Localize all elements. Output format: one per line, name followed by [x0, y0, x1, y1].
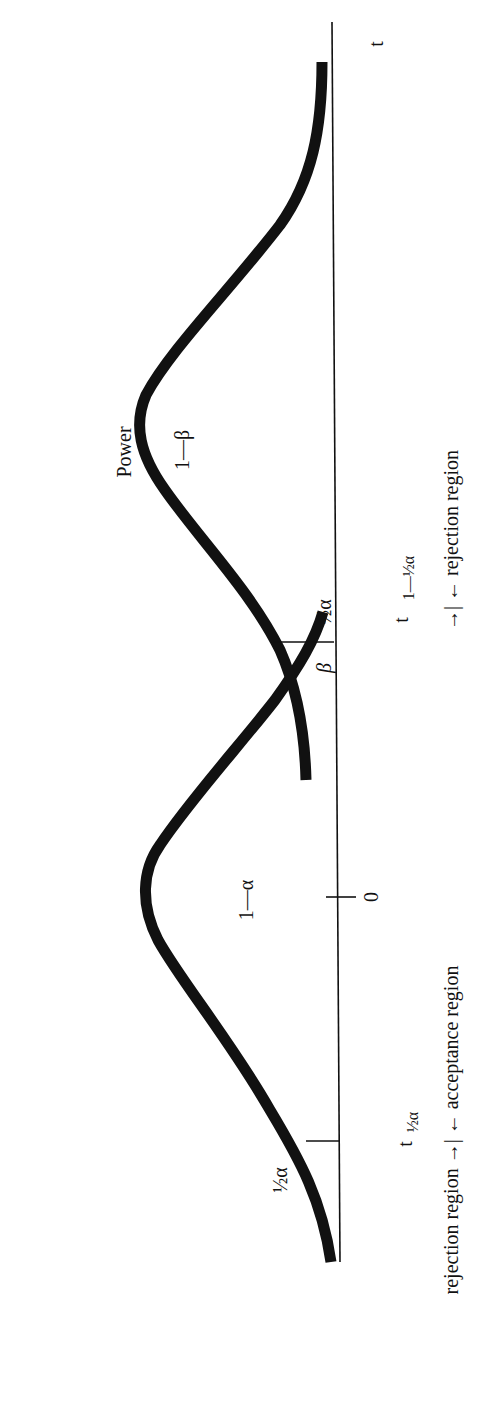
beta-label: β [313, 663, 336, 674]
right-region-caption: →| ← rejection region [440, 450, 463, 630]
axis-label-t: t [365, 41, 387, 47]
zero-label: 0 [360, 892, 382, 902]
svg-text:t: t [390, 617, 412, 623]
power-value-label: 1—β [171, 430, 194, 470]
svg-text:1—½α: 1—½α [400, 555, 417, 600]
lower-critical-value-label: t ½α [394, 1111, 421, 1147]
acceptance-probability-label: 1—α [235, 879, 257, 920]
svg-text:t: t [394, 1141, 416, 1147]
svg-text:½α: ½α [404, 1111, 421, 1132]
power-label: Power [113, 426, 135, 477]
upper-critical-value-label: t 1—½α [390, 555, 417, 623]
left-tail-alpha-label: ½α [269, 1167, 291, 1193]
left-region-caption: rejection region →| ← acceptance region [440, 966, 463, 1295]
hypothesis-test-diagram: t 0 1—α Power 1—β ½α ½α β t ½α t 1—½α re… [0, 0, 488, 1426]
right-tail-alpha-label: ½α [313, 599, 335, 625]
